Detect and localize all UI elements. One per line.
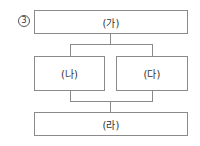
box-na: (나) (34, 56, 105, 91)
box-ga: (가) (34, 10, 188, 34)
connector-bottom-vertical (110, 101, 111, 112)
connector-top-right-drop (152, 44, 153, 56)
connector-bottom-horizontal (70, 101, 153, 102)
box-ra-label: (라) (103, 117, 120, 132)
connector-top-left-drop (70, 44, 71, 56)
box-ga-label: (가) (103, 15, 120, 30)
box-da: (다) (116, 56, 188, 91)
box-da-label: (다) (144, 66, 161, 81)
choice-number-marker: 3 (18, 15, 30, 27)
connector-top-horizontal (70, 44, 153, 45)
box-ra: (라) (34, 112, 188, 136)
box-na-label: (나) (61, 66, 78, 81)
